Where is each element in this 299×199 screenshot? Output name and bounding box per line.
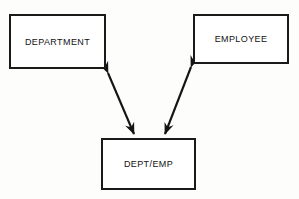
entity-box-employee[interactable]: EMPLOYEE <box>193 14 289 64</box>
entity-label-employee: EMPLOYEE <box>215 34 268 44</box>
entity-label-department: DEPARTMENT <box>25 37 90 47</box>
connector-department-to-deptemp <box>108 73 134 134</box>
diagram-canvas: DEPARTMENT EMPLOYEE DEPT/EMP <box>0 0 299 199</box>
entity-box-department[interactable]: DEPARTMENT <box>9 14 106 69</box>
entity-label-dept-emp: DEPT/EMP <box>124 159 173 169</box>
entity-box-dept-emp[interactable]: DEPT/EMP <box>101 138 196 190</box>
connector-employee-to-deptemp <box>165 67 191 134</box>
